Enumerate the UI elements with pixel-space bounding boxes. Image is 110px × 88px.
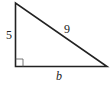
hypotenuse-label: 9 [64, 22, 70, 36]
right-triangle [16, 3, 108, 67]
vertical-leg-label: 5 [6, 28, 12, 42]
triangle-diagram: 5 9 b [0, 0, 110, 88]
right-angle-marker [16, 59, 24, 67]
horizontal-leg-label: b [56, 69, 62, 83]
